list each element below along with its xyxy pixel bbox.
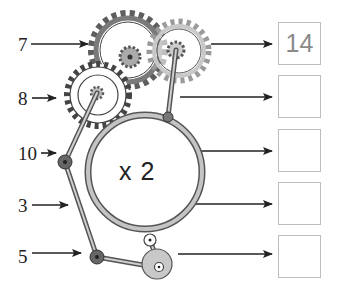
output-box[interactable]	[278, 129, 321, 172]
input-number: 3	[18, 196, 28, 215]
output-box[interactable]: 14	[278, 22, 321, 65]
input-number: 5	[18, 247, 28, 266]
output-box[interactable]	[278, 235, 321, 278]
input-number: 7	[18, 35, 28, 54]
function-machine-worksheet: x 2 7 8 10 3 5 14	[0, 0, 346, 306]
operation-label: x 2	[119, 157, 155, 186]
output-box[interactable]	[278, 182, 321, 225]
output-box[interactable]	[278, 75, 321, 118]
input-number: 8	[18, 89, 28, 108]
input-number: 10	[18, 144, 37, 163]
